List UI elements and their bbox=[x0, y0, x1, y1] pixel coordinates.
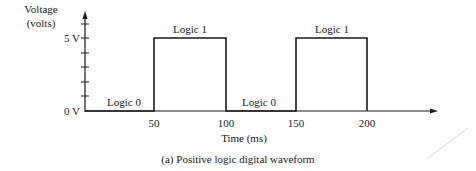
x-tick-100: 100 bbox=[218, 118, 235, 129]
y-axis-arrow-icon bbox=[83, 11, 88, 19]
annotation-logic-1-first: Logic 1 bbox=[173, 24, 207, 35]
figure-caption: (a) Positive logic digital waveform bbox=[161, 154, 314, 165]
y-tick-5v: 5 V bbox=[64, 33, 80, 44]
x-axis-arrow-icon bbox=[430, 109, 438, 114]
page-mark bbox=[428, 128, 468, 158]
x-tick-150: 150 bbox=[288, 118, 305, 129]
waveform-plot bbox=[0, 0, 476, 171]
annotation-logic-0-first: Logic 0 bbox=[107, 97, 141, 108]
y-tick-0v: 0 V bbox=[64, 106, 80, 117]
x-axis-title: Time (ms) bbox=[221, 133, 267, 144]
x-tick-50: 50 bbox=[149, 118, 160, 129]
annotation-logic-1-second: Logic 1 bbox=[315, 24, 349, 35]
annotation-logic-0-second: Logic 0 bbox=[242, 97, 276, 108]
y-axis-title-line2: (volts) bbox=[27, 18, 56, 29]
y-axis-title-line1: Voltage bbox=[24, 4, 57, 15]
x-tick-200: 200 bbox=[359, 118, 376, 129]
